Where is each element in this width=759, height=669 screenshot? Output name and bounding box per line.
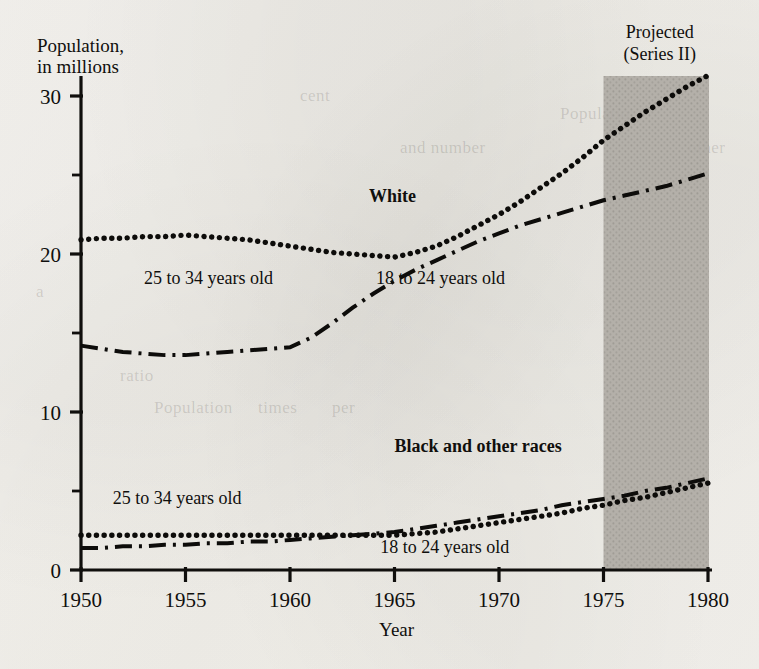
- y-tick-label: 0: [51, 559, 62, 583]
- figure-container: Population and number other a ratio Popu…: [0, 0, 759, 669]
- y-axis-title-line1: Population,: [37, 35, 124, 56]
- series-label: 25 to 34 years old: [144, 268, 273, 288]
- group-label: White: [369, 186, 416, 206]
- annotation-layer: WhiteBlack and other races25 to 34 years…: [113, 186, 562, 557]
- x-tick-label: 1960: [269, 588, 311, 612]
- x-tick-label: 1965: [374, 588, 416, 612]
- projection-label-line2: (Series II): [624, 44, 696, 65]
- line-chart: Projected (Series II) Population, in mil…: [0, 0, 759, 669]
- x-tick-label: 1970: [478, 588, 520, 612]
- x-tick-label: 1950: [60, 588, 102, 612]
- y-tick-label: 30: [40, 85, 61, 109]
- x-axis-title: Year: [379, 619, 415, 640]
- projection-label-line1: Projected: [626, 22, 694, 42]
- series-label: 18 to 24 years old: [380, 537, 509, 557]
- series-label: 25 to 34 years old: [113, 488, 242, 508]
- x-tick-label: 1955: [165, 588, 207, 612]
- series-label: 18 to 24 years old: [376, 268, 505, 288]
- x-tick-label: 1975: [583, 588, 625, 612]
- x-tick-label: 1980: [687, 588, 729, 612]
- y-tick-label: 10: [40, 401, 61, 425]
- y-axis-title-line2: in millions: [37, 56, 119, 77]
- group-label: Black and other races: [395, 436, 562, 456]
- y-tick-label: 20: [40, 243, 61, 267]
